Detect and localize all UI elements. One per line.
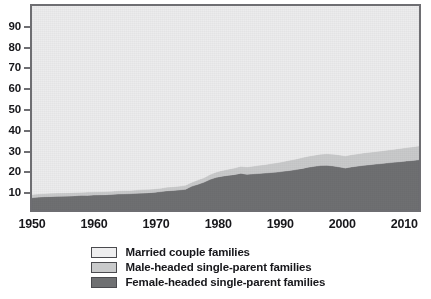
y-axis-tick-label: 10 bbox=[0, 187, 21, 199]
legend-label: Male-headed single-parent families bbox=[126, 261, 312, 273]
legend-swatch bbox=[91, 277, 117, 288]
x-axis-tick-label: 1960 bbox=[81, 218, 108, 231]
x-axis: 1950196019701980199020002010 bbox=[0, 214, 431, 240]
legend-item: Married couple families bbox=[91, 246, 341, 258]
legend-item: Male-headed single-parent families bbox=[91, 261, 341, 273]
y-axis-tick-label: 70 bbox=[0, 62, 21, 74]
x-axis-tick-label: 1950 bbox=[18, 218, 45, 231]
legend-swatch bbox=[91, 247, 117, 258]
legend-label: Married couple families bbox=[126, 246, 250, 258]
x-axis-tick-label: 1980 bbox=[205, 218, 232, 231]
legend-swatch bbox=[91, 262, 117, 273]
y-axis-tick-label: 40 bbox=[0, 125, 21, 137]
y-axis-tick-label: 60 bbox=[0, 83, 21, 95]
y-axis-tick-label: 80 bbox=[0, 42, 21, 54]
x-axis-tick-label: 2010 bbox=[391, 218, 418, 231]
x-axis-tick-label: 1990 bbox=[267, 218, 294, 231]
plot-area bbox=[32, 6, 419, 210]
legend-label: Female-headed single-parent families bbox=[126, 276, 326, 288]
plot-frame bbox=[30, 4, 421, 212]
y-axis-tick-label: 20 bbox=[0, 166, 21, 178]
legend-item: Female-headed single-parent families bbox=[91, 276, 341, 288]
y-axis-tick-label: 50 bbox=[0, 104, 21, 116]
x-axis-tick-label: 1970 bbox=[143, 218, 170, 231]
y-axis-tick-label: 90 bbox=[0, 21, 21, 33]
stacked-area-chart-figure: 102030405060708090 195019601970198019902… bbox=[0, 0, 431, 299]
series-layer bbox=[32, 6, 419, 210]
chart-legend: Married couple familiesMale-headed singl… bbox=[0, 246, 431, 288]
x-axis-tick-label: 2000 bbox=[329, 218, 356, 231]
y-axis: 102030405060708090 bbox=[0, 0, 30, 216]
y-axis-tick-label: 30 bbox=[0, 146, 21, 158]
